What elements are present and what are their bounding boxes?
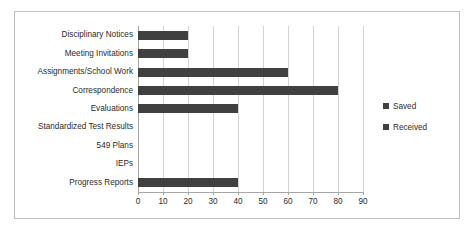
plot-area [138,26,363,192]
x-axis-line [138,192,364,193]
x-tick-label: 80 [325,197,351,206]
chart-legend: SavedReceived [383,99,457,141]
legend-label: Received [393,123,427,132]
x-tick-label: 10 [150,197,176,206]
chart-row [138,155,363,173]
legend-item-received[interactable]: Received [383,120,457,134]
legend-label: Saved [393,102,416,111]
chart-row [138,81,363,99]
chart-row [138,137,363,155]
x-tick-label: 70 [300,197,326,206]
x-tick-label: 40 [225,197,251,206]
x-tick-label: 20 [175,197,201,206]
category-axis-labels: Disciplinary NoticesMeeting InvitationsA… [15,26,133,192]
category-label: IEPs [15,159,133,169]
x-tick-mark [313,192,314,195]
chart-row [138,100,363,118]
x-tick-label: 0 [125,197,151,206]
category-label: Disciplinary Notices [15,30,133,40]
category-label: Assignments/School Work [15,67,133,77]
x-tick-mark [163,192,164,195]
legend-swatch-icon [383,124,389,130]
x-tick-mark [263,192,264,195]
x-tick-mark [188,192,189,195]
x-tick-mark [338,192,339,195]
bar-saved [138,31,188,40]
x-tick-mark [138,192,139,195]
category-label: Correspondence [15,86,133,96]
bar-saved [138,178,238,187]
chart-row [138,44,363,62]
x-tick-label: 60 [275,197,301,206]
category-label: Progress Reports [15,178,133,188]
bar-saved [138,86,338,95]
chart-row [138,26,363,44]
bar-saved [138,68,288,77]
legend-item-saved[interactable]: Saved [383,99,457,113]
category-label: 549 Plans [15,141,133,151]
category-label: Evaluations [15,104,133,114]
chart-row [138,118,363,136]
chart-row [138,174,363,192]
x-tick-mark [288,192,289,195]
bar-saved [138,49,188,58]
chart-row [138,63,363,81]
category-label: Meeting Invitations [15,49,133,59]
chart-frame: Disciplinary NoticesMeeting InvitationsA… [14,11,460,219]
legend-swatch-icon [383,103,389,109]
x-tick-label: 90 [350,197,376,206]
x-tick-label: 50 [250,197,276,206]
category-label: Standardized Test Results [15,122,133,132]
x-tick-mark [238,192,239,195]
x-tick-mark [363,192,364,195]
x-tick-label: 30 [200,197,226,206]
bar-saved [138,104,238,113]
gridline-90 [363,26,364,192]
x-tick-mark [213,192,214,195]
